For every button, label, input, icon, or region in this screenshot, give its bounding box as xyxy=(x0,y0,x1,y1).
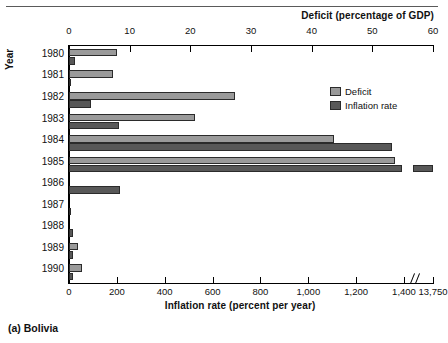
figure-caption: (a) Bolivia xyxy=(8,322,58,334)
ticklabel-top-20: 20 xyxy=(185,25,196,36)
bar-inflation-rate-1987 xyxy=(69,208,71,216)
legend-item-inflation-rate: Inflation rate xyxy=(330,100,397,112)
tick-bot-1000 xyxy=(308,277,309,283)
bar-inflation-rate-1988 xyxy=(69,229,73,237)
bar-inflation-rate-1980 xyxy=(69,57,75,65)
ticklabel-bot-1400: 1,400 xyxy=(392,286,416,297)
ticklabel-top-50: 50 xyxy=(367,25,378,36)
tick-top-50 xyxy=(372,46,373,52)
tick-bot-1200 xyxy=(356,277,357,283)
ticklabel-bot-200: 200 xyxy=(109,286,125,297)
tick-bot-600 xyxy=(213,277,214,283)
bar-deficit-1990 xyxy=(69,264,82,272)
year-label-1990: 1990 xyxy=(24,263,64,274)
ticklabel-bot-1200: 1,200 xyxy=(344,286,368,297)
tick-bot-800 xyxy=(260,277,261,283)
bar-inflation-rate-1985 xyxy=(69,165,402,173)
year-label-1981: 1981 xyxy=(24,69,64,80)
year-label-1987: 1987 xyxy=(24,199,64,210)
ticklabel-top-30: 30 xyxy=(246,25,257,36)
top-rule xyxy=(6,6,438,7)
year-label-1986: 1986 xyxy=(24,177,64,188)
ticklabel-bot-800: 800 xyxy=(252,286,268,297)
year-label-1982: 1982 xyxy=(24,91,64,102)
ticklabel-bot-400: 400 xyxy=(157,286,173,297)
y-axis-title: Year xyxy=(4,49,15,70)
year-label-1983: 1983 xyxy=(24,113,64,124)
legend-swatch-deficit xyxy=(330,87,341,96)
ticklabel-bot-600: 600 xyxy=(205,286,221,297)
top-axis-title: Deficit (percentage of GDP) xyxy=(301,10,434,21)
legend-label-deficit: Deficit xyxy=(345,86,371,98)
ticklabel-top-60: 60 xyxy=(428,25,439,36)
bottom-axis-title: Inflation rate (percent per year) xyxy=(165,300,316,311)
bar-deficit-1984 xyxy=(69,135,334,143)
bar-inflation-rate-1982 xyxy=(69,100,91,108)
year-label-1984: 1984 xyxy=(24,134,64,145)
ticklabel-bot-13750: 13,750 xyxy=(418,286,447,297)
tick-bot-1400 xyxy=(404,277,405,283)
ticklabel-bot-1000: 1,000 xyxy=(296,286,320,297)
bar-inflation-rate-1989 xyxy=(69,251,73,259)
bar-inflation-rate-1986 xyxy=(69,186,120,194)
bar-deficit-1982 xyxy=(69,92,235,100)
bar-deficit-1985 xyxy=(69,157,395,165)
bottom-axis-line xyxy=(68,283,434,284)
legend-swatch-inflation-rate xyxy=(330,101,341,110)
legend: Deficit Inflation rate xyxy=(330,86,397,113)
tick-top-40 xyxy=(312,46,313,52)
tick-bot-13750 xyxy=(433,277,434,283)
bar-deficit-1983 xyxy=(69,114,195,122)
tick-top-60 xyxy=(433,46,434,52)
bar-inflation-rate-1985-beyond-break xyxy=(413,165,433,173)
year-label-1985: 1985 xyxy=(24,156,64,167)
ticklabel-top-10: 10 xyxy=(124,25,135,36)
bar-inflation-rate-1981 xyxy=(69,79,71,87)
ticklabel-bot-0: 0 xyxy=(66,286,71,297)
axis-break-mark xyxy=(409,272,421,282)
year-label-1980: 1980 xyxy=(24,48,64,59)
tick-bot-400 xyxy=(165,277,166,283)
bar-inflation-rate-1990 xyxy=(69,273,73,281)
bar-deficit-1980 xyxy=(69,49,117,57)
bar-inflation-rate-1984 xyxy=(69,143,392,151)
tick-top-30 xyxy=(251,46,252,52)
legend-label-inflation-rate: Inflation rate xyxy=(345,100,397,112)
ticklabel-top-0: 0 xyxy=(66,25,71,36)
year-label-1989: 1989 xyxy=(24,242,64,253)
bar-inflation-rate-1983 xyxy=(69,122,119,130)
tick-top-10 xyxy=(130,46,131,52)
year-label-1988: 1988 xyxy=(24,220,64,231)
ticklabel-top-40: 40 xyxy=(306,25,317,36)
bar-deficit-1981 xyxy=(69,70,113,78)
legend-item-deficit: Deficit xyxy=(330,86,397,98)
tick-top-20 xyxy=(190,46,191,52)
tick-bot-200 xyxy=(117,277,118,283)
bar-deficit-1989 xyxy=(69,243,78,251)
